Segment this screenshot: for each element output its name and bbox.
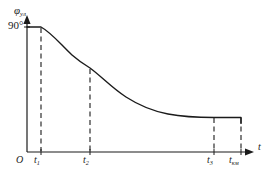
phi-vs-time-chart: φул 90° O t t1 t2 t3 tкм xyxy=(0,0,272,175)
y-axis-label: φул xyxy=(14,5,26,16)
tick-label-tkm-subscript: км xyxy=(232,159,239,166)
phi-curve-group xyxy=(27,27,241,124)
chart-canvas xyxy=(0,0,272,175)
x-axis-tick-label-tkm: tкм xyxy=(229,155,239,165)
x-axis-arrowhead xyxy=(245,148,254,155)
dashed-projection-lines xyxy=(41,28,241,151)
origin-label: O xyxy=(16,155,23,165)
tick-label-t3-subscript: 3 xyxy=(210,159,213,166)
x-axis-tick-label-t2: t2 xyxy=(83,155,89,165)
x-axis-tick-label-t3: t3 xyxy=(207,155,213,165)
phi-curve xyxy=(27,27,241,118)
tick-label-t1-subscript: 1 xyxy=(37,159,40,166)
x-axis-label: t xyxy=(258,142,261,152)
y-axis-label-subscript: ул xyxy=(20,10,26,17)
axes-group xyxy=(23,15,254,156)
x-axis-tick-label-t1: t1 xyxy=(34,155,40,165)
y-axis-tick-label-90deg: 90° xyxy=(8,20,23,31)
tick-label-t2-subscript: 2 xyxy=(86,159,89,166)
